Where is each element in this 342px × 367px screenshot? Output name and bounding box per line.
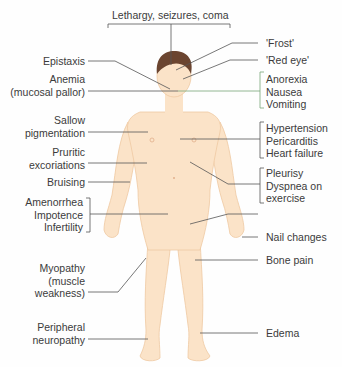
navel [173, 177, 175, 179]
torso [128, 112, 221, 250]
label-sallow-pigmentation: Sallow pigmentation [25, 114, 85, 139]
label-peripheral-neuropathy: Peripheral neuropathy [32, 321, 85, 346]
label-frost: 'Frost' [266, 37, 294, 50]
uremia-diagram: Lethargy, seizures, coma Epistaxis Anemi… [0, 0, 342, 367]
leader-myopathy [88, 258, 146, 292]
label-anemia: Anemia (mucosal pallor) [10, 73, 85, 98]
label-epistaxis: Epistaxis [43, 55, 85, 68]
human-body-figure [104, 51, 244, 361]
label-cardiac: Hypertension Pericarditis Heart failure [266, 122, 328, 160]
label-myopathy: Myopathy (muscle weakness) [35, 262, 85, 300]
label-red-eye: 'Red eye' [266, 54, 309, 67]
label-nail-changes: Nail changes [266, 231, 327, 244]
label-gi-symptoms: Anorexia Nausea Vomiting [266, 73, 307, 111]
label-bone-pain: Bone pain [266, 254, 313, 267]
label-pulmonary: Pleurisy Dyspnea on exercise [266, 167, 322, 205]
leader-red-eye [183, 60, 258, 79]
label-pruritic-excoriations: Pruritic excoriations [29, 146, 85, 171]
label-bruising: Bruising [47, 176, 85, 189]
label-edema: Edema [266, 327, 299, 340]
left-leg [140, 240, 170, 361]
right-leg [178, 240, 210, 361]
label-reproductive: Amenorrhea Impotence Infertility [25, 196, 83, 234]
label-lethargy: Lethargy, seizures, coma [112, 9, 229, 22]
